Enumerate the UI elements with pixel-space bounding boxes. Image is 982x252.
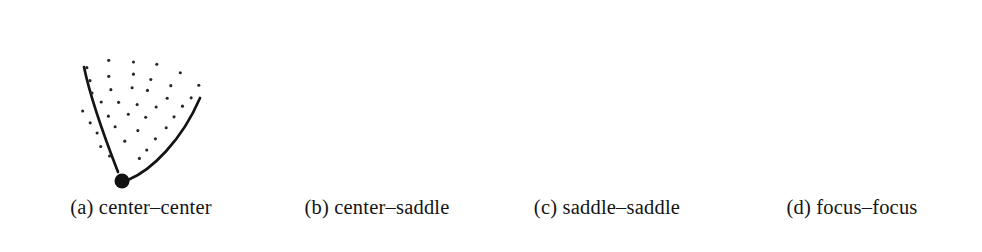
lattice-dot bbox=[107, 75, 110, 78]
lattice-dot bbox=[132, 73, 135, 76]
lattice-dot bbox=[154, 137, 157, 140]
lattice-dot bbox=[166, 97, 169, 100]
panel-d: (d) focus–focus bbox=[722, 0, 982, 252]
lattice-dot bbox=[145, 149, 148, 152]
lattice-dot bbox=[107, 59, 110, 62]
figure-root: (a) center–center (b) center–saddle (c) … bbox=[0, 0, 982, 252]
panel-b-caption-text: (b) center–saddle bbox=[304, 196, 449, 218]
lattice-dot bbox=[85, 66, 88, 69]
panel-a-caption: (a) center–center bbox=[0, 196, 282, 219]
panel-d-caption: (d) focus–focus bbox=[722, 196, 982, 219]
lattice-dot bbox=[136, 129, 139, 132]
lattice-dot bbox=[138, 157, 141, 160]
lattice-dot bbox=[149, 78, 152, 81]
lattice-dot bbox=[190, 96, 193, 99]
lattice-dot bbox=[155, 63, 158, 66]
lattice-dot bbox=[181, 105, 184, 108]
lattice-dot bbox=[90, 91, 93, 94]
lattice-dot bbox=[169, 84, 172, 87]
lattice-dot bbox=[197, 84, 200, 87]
lattice-dot bbox=[173, 115, 176, 118]
lattice-dot bbox=[132, 60, 135, 63]
lattice-dot bbox=[117, 101, 120, 104]
lattice-dot bbox=[99, 145, 102, 148]
lattice-dot bbox=[88, 79, 91, 82]
separatrix-curve bbox=[84, 67, 118, 172]
lattice-dot bbox=[100, 100, 103, 103]
panel-c: (c) saddle–saddle bbox=[482, 0, 732, 252]
separatrix-curve bbox=[128, 98, 200, 180]
panel-c-diagram bbox=[482, 0, 732, 205]
panel-b-caption: (b) center–saddle bbox=[252, 196, 502, 219]
panel-d-diagram bbox=[722, 0, 982, 200]
lattice-dot bbox=[96, 132, 99, 135]
panel-a-caption-text: (a) center–center bbox=[70, 196, 212, 218]
panel-a-singular-point bbox=[115, 174, 130, 189]
lattice-dot bbox=[136, 103, 139, 106]
panel-b: (b) center–saddle bbox=[252, 0, 502, 252]
lattice-dot bbox=[155, 105, 158, 108]
lattice-dot bbox=[114, 125, 117, 128]
panel-c-caption-text: (c) saddle–saddle bbox=[534, 196, 680, 218]
lattice-dot bbox=[146, 89, 149, 92]
lattice-dot bbox=[108, 154, 111, 157]
lattice-dot bbox=[165, 126, 168, 129]
lattice-dot bbox=[144, 116, 147, 119]
panel-a: (a) center–center bbox=[0, 0, 282, 252]
lattice-dot bbox=[89, 121, 92, 124]
lattice-dot bbox=[131, 86, 134, 89]
lattice-dot bbox=[179, 71, 182, 74]
lattice-dot bbox=[107, 115, 110, 118]
lattice-dot bbox=[123, 140, 126, 143]
panel-c-caption: (c) saddle–saddle bbox=[482, 196, 732, 219]
lattice-dot bbox=[109, 88, 112, 91]
panel-b-diagram bbox=[252, 0, 502, 200]
lattice-dot bbox=[81, 109, 84, 112]
panel-d-caption-text: (d) focus–focus bbox=[786, 196, 917, 218]
lattice-dot bbox=[127, 113, 130, 116]
panel-a-diagram bbox=[0, 0, 282, 200]
